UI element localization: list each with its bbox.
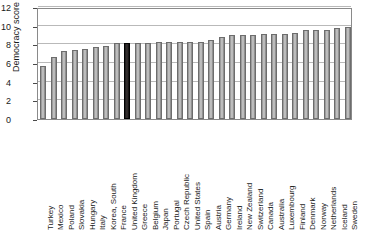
- x-axis-label: Germany: [224, 197, 233, 230]
- x-axis-label: Greece: [140, 204, 149, 230]
- bar-group: [38, 9, 351, 119]
- bar: [345, 27, 351, 119]
- x-axis-label: Denmark: [308, 198, 317, 230]
- democracy-score-bar-chart: Democracy score 024681012 TurkeyMexicoPo…: [0, 0, 367, 235]
- bar: [187, 42, 193, 119]
- bar: [177, 42, 183, 119]
- x-axis-label: Netherlands: [329, 187, 338, 230]
- bar: [282, 34, 288, 119]
- bar: [219, 37, 225, 119]
- bar: [135, 43, 141, 119]
- bar: [124, 43, 130, 119]
- x-axis-label: Iceland: [340, 204, 349, 230]
- x-axis-label: Norway: [319, 203, 328, 230]
- y-axis-tick-label: 4: [6, 78, 11, 88]
- x-axis-label: Japan: [161, 208, 170, 230]
- bar: [40, 66, 46, 119]
- x-axis-label: New Zealand: [245, 183, 254, 230]
- x-axis-label: Hungary: [88, 200, 97, 230]
- bar: [93, 47, 99, 119]
- x-axis-label: Australia: [277, 199, 286, 230]
- bar: [61, 51, 67, 119]
- y-axis-tick-label: 2: [6, 96, 11, 106]
- bar: [324, 30, 330, 119]
- bar: [240, 35, 246, 119]
- bar: [103, 46, 109, 119]
- x-axis-label: Mexico: [56, 205, 65, 230]
- plot-area: [37, 8, 352, 120]
- bar: [313, 30, 319, 119]
- y-axis-tick-label: 8: [6, 40, 11, 50]
- x-axis-label: Luxembourg: [287, 186, 296, 230]
- bar: [72, 50, 78, 119]
- x-axis-label: Portugal: [172, 200, 181, 230]
- bar: [271, 34, 277, 119]
- x-axis-label: France: [119, 205, 128, 230]
- bar: [156, 42, 162, 119]
- x-axis-label: United Kingdom: [130, 173, 139, 230]
- x-axis-label: Austria: [214, 205, 223, 230]
- x-axis-label: Belgium: [151, 201, 160, 230]
- bar: [198, 42, 204, 119]
- x-axis-label: Poland: [67, 205, 76, 230]
- x-axis-label: Canada: [266, 202, 275, 230]
- gridline: [38, 6, 351, 7]
- y-axis-tick-label: 6: [6, 59, 11, 69]
- x-axis-label: Turkey: [46, 206, 55, 230]
- x-axis-label: Slovakia: [77, 200, 86, 230]
- bar: [229, 35, 235, 119]
- x-axis-label: Finland: [298, 204, 307, 230]
- bar: [166, 42, 172, 119]
- y-axis-tick-label: 10: [1, 22, 11, 32]
- bar: [51, 57, 57, 119]
- x-axis-label: United States: [193, 182, 202, 230]
- bar: [114, 43, 120, 119]
- bar: [208, 40, 214, 119]
- bar: [82, 49, 88, 119]
- x-axis-label: Ireland: [235, 206, 244, 230]
- y-axis-tick-mark: [33, 120, 37, 121]
- bar: [145, 43, 151, 119]
- bar: [334, 28, 340, 119]
- x-axis-label-group: TurkeyMexicoPolandSlovakiaHungaryItalyKo…: [37, 122, 352, 234]
- bar: [303, 30, 309, 119]
- x-axis-label: Czech Republic: [182, 174, 191, 230]
- y-axis-tick-label: 12: [1, 3, 11, 13]
- bar: [292, 33, 298, 119]
- y-axis-title: Democracy score: [11, 0, 25, 87]
- bar: [261, 34, 267, 119]
- y-axis-tick-label: 0: [6, 115, 11, 125]
- x-axis-label: Italy: [98, 215, 107, 230]
- x-axis-label: Switzerland: [256, 189, 265, 230]
- x-axis-label: Korea, South: [109, 183, 118, 230]
- bar: [250, 35, 256, 119]
- x-axis-label: Spain: [203, 210, 212, 230]
- x-axis-label: Sweden: [350, 201, 359, 230]
